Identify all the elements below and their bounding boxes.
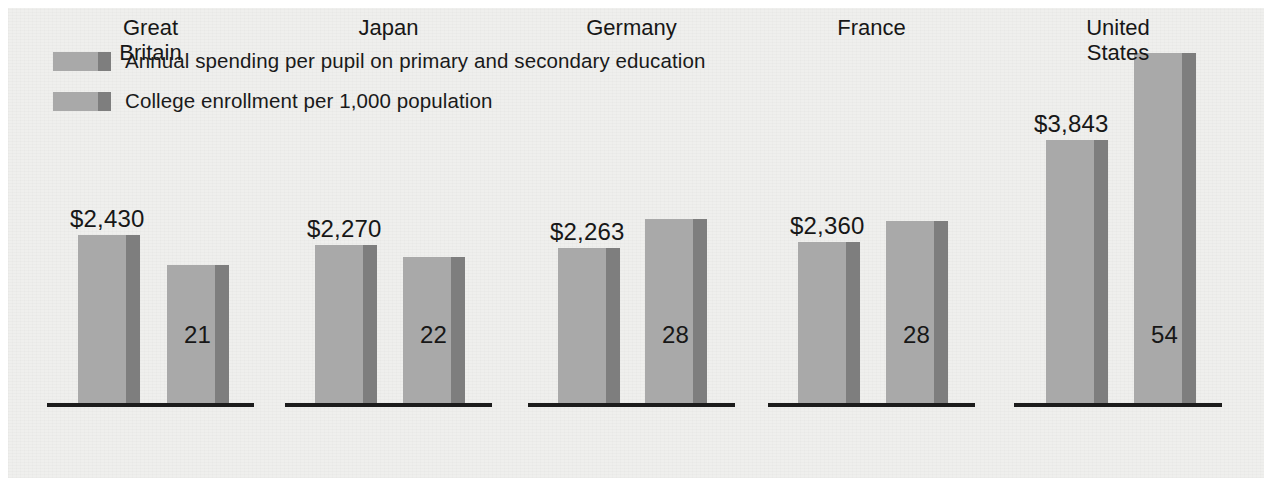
value-label-spending-germany: $2,263 bbox=[550, 218, 625, 246]
axis-line-united-states bbox=[1014, 403, 1222, 407]
bar-enrollment-france[interactable] bbox=[886, 221, 948, 403]
category-label-japan: Japan bbox=[285, 16, 492, 41]
bar-spending-great-britain[interactable] bbox=[78, 235, 140, 403]
value-label-enrollment-japan: 22 bbox=[420, 321, 447, 349]
value-label-enrollment-france: 28 bbox=[903, 321, 930, 349]
category-label-france: France bbox=[768, 16, 975, 41]
category-label-great-britain: Great Britain bbox=[47, 16, 254, 65]
axis-line-france bbox=[768, 403, 975, 407]
category-label-united-states: United States bbox=[1014, 16, 1222, 65]
bar-enrollment-united-states[interactable] bbox=[1134, 53, 1196, 403]
value-label-spending-france: $2,360 bbox=[790, 212, 865, 240]
value-label-enrollment-united-states: 54 bbox=[1151, 321, 1178, 349]
value-label-spending-united-states: $3,843 bbox=[1034, 110, 1109, 138]
bar-spending-germany[interactable] bbox=[558, 248, 620, 403]
value-label-enrollment-great-britain: 21 bbox=[184, 321, 211, 349]
value-label-spending-great-britain: $2,430 bbox=[70, 205, 145, 233]
chart-panel: Annual spending per pupil on primary and… bbox=[8, 8, 1264, 478]
bar-enrollment-germany[interactable] bbox=[645, 219, 707, 403]
bar-spending-france[interactable] bbox=[798, 242, 860, 403]
bar-spending-united-states[interactable] bbox=[1046, 140, 1108, 403]
axis-line-japan bbox=[285, 403, 492, 407]
value-label-enrollment-germany: 28 bbox=[662, 321, 689, 349]
category-label-germany: Germany bbox=[528, 16, 735, 41]
plot-area: $2,430 21 Great Britain $2,270 22 Japan bbox=[8, 8, 1264, 403]
bar-spending-japan[interactable] bbox=[315, 245, 377, 403]
axis-line-germany bbox=[528, 403, 735, 407]
value-label-spending-japan: $2,270 bbox=[307, 215, 382, 243]
axis-line-great-britain bbox=[47, 403, 254, 407]
chart-page: Annual spending per pupil on primary and… bbox=[0, 0, 1272, 493]
